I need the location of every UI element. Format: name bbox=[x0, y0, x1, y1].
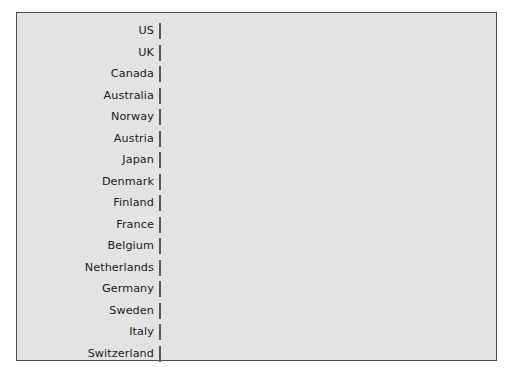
bar-category-label: Netherlands bbox=[85, 262, 154, 273]
bar-row: Canada bbox=[159, 66, 348, 82]
bar-chart-figure: USUKCanadaAustraliaNorwayAustriaJapanDen… bbox=[0, 0, 518, 379]
bar-category-label: Germany bbox=[102, 283, 154, 294]
bar-row: Switzerland bbox=[159, 346, 212, 362]
bar-row: Netherlands bbox=[159, 260, 225, 276]
bar-row: Sweden bbox=[159, 303, 218, 319]
bar-row: Austria bbox=[159, 131, 279, 147]
bar-rect bbox=[159, 131, 161, 147]
bar-category-label: Denmark bbox=[102, 176, 154, 187]
bar-rect bbox=[159, 260, 161, 276]
bar-row: Australia bbox=[159, 88, 311, 104]
bar-row: Japan bbox=[159, 152, 253, 168]
bar-rect bbox=[159, 45, 161, 61]
bar-rect bbox=[159, 324, 161, 340]
bar-row: UK bbox=[159, 45, 418, 61]
bar-category-label: Norway bbox=[111, 111, 154, 122]
bar-rect bbox=[159, 23, 161, 39]
bar-row: France bbox=[159, 217, 247, 233]
bar-category-label: Austria bbox=[114, 133, 154, 144]
bar-category-label: UK bbox=[138, 47, 154, 58]
bar-category-label: Canada bbox=[111, 68, 154, 79]
bar-category-label: Australia bbox=[104, 90, 154, 101]
bar-category-label: Italy bbox=[129, 326, 154, 337]
bar-rect bbox=[159, 88, 161, 104]
bar-row: Germany bbox=[159, 281, 224, 297]
bar-rect bbox=[159, 195, 161, 211]
bar-row: Denmark bbox=[159, 174, 254, 190]
bar-rect bbox=[159, 66, 161, 82]
bar-rect bbox=[159, 238, 161, 254]
bar-category-label: Switzerland bbox=[88, 348, 154, 359]
bars-layer: USUKCanadaAustraliaNorwayAustriaJapanDen… bbox=[17, 13, 496, 360]
bar-row: US bbox=[159, 23, 421, 39]
bar-row: Belgium bbox=[159, 238, 245, 254]
bar-row: Italy bbox=[159, 324, 214, 340]
bar-category-label: Japan bbox=[122, 154, 154, 165]
bar-rect bbox=[159, 346, 161, 362]
bar-category-label: Sweden bbox=[109, 305, 154, 316]
bar-category-label: Finland bbox=[113, 197, 154, 208]
bar-row: Finland bbox=[159, 195, 250, 211]
bar-rect bbox=[159, 303, 161, 319]
plot-panel: USUKCanadaAustraliaNorwayAustriaJapanDen… bbox=[16, 12, 497, 361]
bar-category-label: US bbox=[139, 25, 155, 36]
bar-rect bbox=[159, 217, 161, 233]
bar-rect bbox=[159, 109, 161, 125]
bar-rect bbox=[159, 174, 161, 190]
bar-rect bbox=[159, 281, 161, 297]
bar-rect bbox=[159, 152, 161, 168]
bar-row: Norway bbox=[159, 109, 291, 125]
bar-category-label: France bbox=[116, 219, 154, 230]
bar-category-label: Belgium bbox=[107, 240, 154, 251]
